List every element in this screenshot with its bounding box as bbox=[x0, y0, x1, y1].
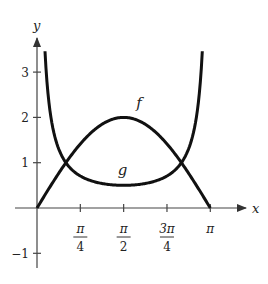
x-tick-denominator: 2 bbox=[120, 240, 128, 254]
x-tick-numerator: π bbox=[75, 222, 85, 236]
function-plot: xy321−1π4π23π4πfg bbox=[0, 0, 268, 284]
x-tick-label: π bbox=[205, 222, 215, 236]
y-tick-label: 2 bbox=[21, 111, 29, 125]
curve-label-g: g bbox=[118, 161, 128, 179]
y-tick-label: 1 bbox=[21, 156, 29, 170]
x-tick-denominator: 4 bbox=[163, 240, 171, 254]
y-tick-label: 3 bbox=[21, 66, 29, 80]
y-tick-label: −1 bbox=[11, 247, 29, 261]
x-tick-numerator: π bbox=[119, 222, 129, 236]
y-axis-label: y bbox=[32, 18, 41, 33]
curve-label-f: f bbox=[135, 94, 144, 112]
curves bbox=[37, 51, 210, 208]
x-tick-denominator: 4 bbox=[77, 240, 85, 254]
labels: xy321−1π4π23π4πfg bbox=[11, 18, 260, 261]
x-axis-label: x bbox=[252, 201, 260, 216]
x-tick-numerator: 3π bbox=[159, 222, 176, 236]
